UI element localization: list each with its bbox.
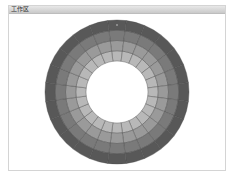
wheel-segment[interactable]	[109, 143, 125, 154]
selection-marker[interactable]	[116, 24, 118, 26]
wheel-segment[interactable]	[112, 123, 123, 134]
wheel-segment[interactable]	[65, 85, 76, 98]
wheel-segment[interactable]	[148, 87, 159, 98]
wheel-segment[interactable]	[158, 85, 169, 98]
wheel-segment[interactable]	[108, 153, 127, 164]
wheel-segment[interactable]	[76, 87, 87, 98]
wheel-segment[interactable]	[178, 83, 189, 102]
wheel-segment[interactable]	[55, 84, 66, 100]
wheel-segment[interactable]	[112, 51, 123, 62]
wheel-segment[interactable]	[109, 30, 125, 41]
color-wheel[interactable]	[0, 0, 232, 179]
wheel-segment[interactable]	[110, 133, 123, 144]
wheel-segment[interactable]	[110, 40, 123, 51]
wheel-segment[interactable]	[45, 83, 56, 102]
wheel-segment[interactable]	[168, 84, 179, 100]
